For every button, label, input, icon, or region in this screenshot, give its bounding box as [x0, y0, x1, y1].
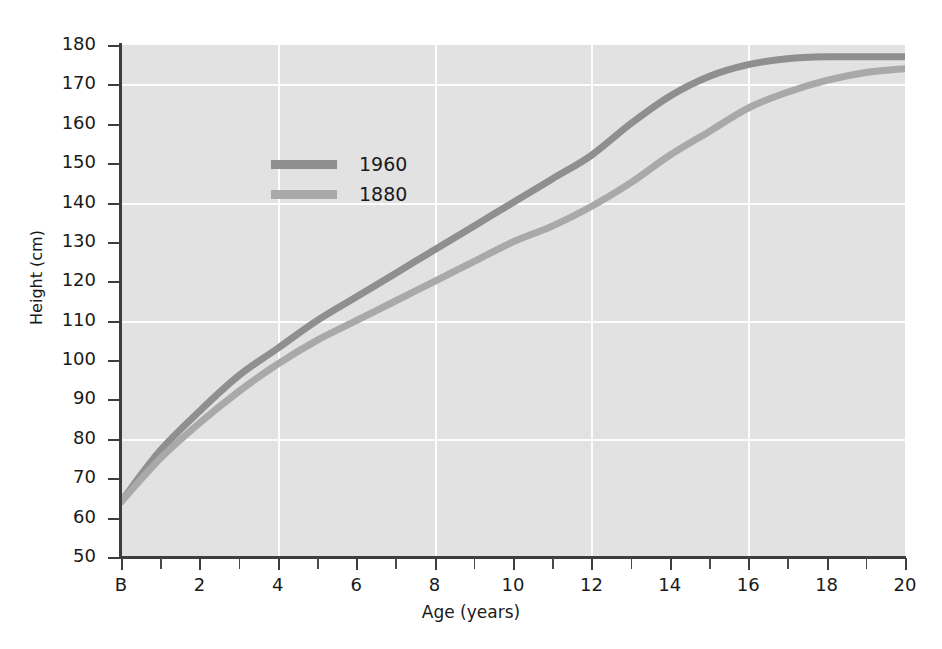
legend-label: 1960	[359, 153, 407, 175]
series-curves	[121, 45, 905, 557]
x-tick-minor	[787, 558, 789, 569]
y-tick-label: 50	[52, 545, 96, 566]
y-tick-label: 80	[52, 427, 96, 448]
legend-item[interactable]: 1960	[271, 149, 407, 179]
y-tick-label: 100	[52, 348, 96, 369]
x-tick-label: B	[91, 574, 151, 595]
x-tick-label: 20	[875, 574, 935, 595]
x-tick-minor	[474, 558, 476, 569]
series-line-1880	[121, 69, 905, 502]
y-tick-label: 130	[52, 230, 96, 251]
y-tick-label: 70	[52, 466, 96, 487]
y-tick	[108, 124, 119, 126]
x-axis-title: Age (years)	[0, 602, 942, 622]
y-tick	[108, 439, 119, 441]
x-tick	[356, 558, 358, 570]
y-tick	[108, 45, 119, 47]
x-tick	[121, 558, 123, 570]
y-tick-label: 90	[52, 387, 96, 408]
chart-legend: 19601880	[271, 149, 407, 209]
y-tick-label: 140	[52, 191, 96, 212]
x-tick	[827, 558, 829, 570]
x-tick	[748, 558, 750, 570]
y-tick	[108, 242, 119, 244]
x-tick-minor	[709, 558, 711, 569]
y-tick	[108, 360, 119, 362]
y-tick-label: 170	[52, 72, 96, 93]
x-tick-label: 8	[405, 574, 465, 595]
growth-chart-figure: 19601880 5060708090100110120130140150160…	[0, 0, 942, 649]
y-tick	[108, 478, 119, 480]
y-axis-title: Height (cm)	[27, 198, 46, 358]
x-tick-minor	[552, 558, 554, 569]
x-tick-minor	[395, 558, 397, 569]
y-tick	[108, 399, 119, 401]
y-tick	[108, 163, 119, 165]
legend-label: 1880	[359, 183, 407, 205]
y-axis-line	[119, 43, 122, 559]
x-tick	[670, 558, 672, 570]
x-tick	[435, 558, 437, 570]
series-line-1960	[121, 57, 905, 502]
legend-item[interactable]: 1880	[271, 179, 407, 209]
x-tick-label: 4	[248, 574, 308, 595]
x-tick-label: 12	[561, 574, 621, 595]
y-tick-label: 160	[52, 112, 96, 133]
x-tick	[513, 558, 515, 570]
x-tick	[278, 558, 280, 570]
y-tick	[108, 518, 119, 520]
x-tick-label: 18	[797, 574, 857, 595]
x-tick-label: 14	[640, 574, 700, 595]
y-tick-label: 110	[52, 309, 96, 330]
legend-swatch-icon	[271, 160, 337, 169]
y-tick	[108, 281, 119, 283]
y-tick	[108, 203, 119, 205]
x-tick	[199, 558, 201, 570]
x-tick-minor	[160, 558, 162, 569]
y-tick-label: 150	[52, 151, 96, 172]
y-tick-label: 60	[52, 506, 96, 527]
x-tick-label: 2	[169, 574, 229, 595]
x-tick-minor	[631, 558, 633, 569]
x-tick-label: 10	[483, 574, 543, 595]
x-tick-label: 6	[326, 574, 386, 595]
y-tick	[108, 84, 119, 86]
x-tick	[905, 558, 907, 570]
x-tick	[591, 558, 593, 570]
y-tick	[108, 321, 119, 323]
y-tick-label: 120	[52, 269, 96, 290]
plot-area: 19601880	[121, 45, 905, 557]
x-tick-minor	[866, 558, 868, 569]
y-tick-label: 180	[52, 33, 96, 54]
legend-swatch-icon	[271, 190, 337, 199]
x-tick-minor	[317, 558, 319, 569]
y-tick	[108, 557, 119, 559]
x-tick-minor	[239, 558, 241, 569]
x-tick-label: 16	[718, 574, 778, 595]
